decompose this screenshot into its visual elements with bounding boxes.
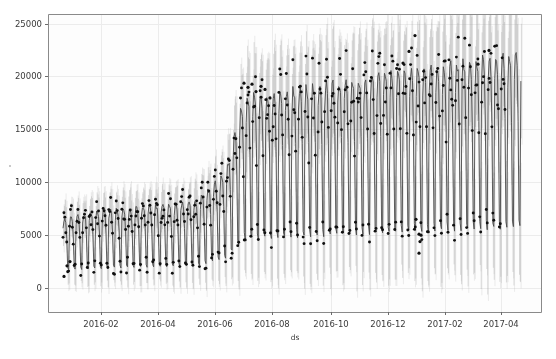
x-tick-label-2017-02: 2017-02 [427,319,463,329]
x-tick-label-2017-04: 2017-04 [483,319,519,329]
x-tick-label-2016-12: 2016-12 [370,319,406,329]
x-tick-label-2016-02: 2016-02 [83,319,119,329]
y-tick-label-25000: 25000 [5,19,42,29]
x-axis-title: ds [291,333,300,342]
forecast-figure: 25000 20000 15000 10000 5000 0 2016-02 2… [0,0,556,359]
stray-artifact-mark [9,165,11,167]
y-tick-label-20000: 20000 [5,71,42,81]
x-tick-label-2016-06: 2016-06 [197,319,233,329]
x-tick-label-2016-10: 2016-10 [313,319,349,329]
y-tick-label-10000: 10000 [5,177,42,187]
forecast-plot-canvas [0,0,556,359]
y-tick-label-15000: 15000 [5,124,42,134]
x-tick-label-2016-04: 2016-04 [140,319,176,329]
y-tick-label-5000: 5000 [5,230,42,240]
x-tick-label-2016-08: 2016-08 [254,319,290,329]
y-tick-label-0: 0 [5,283,42,293]
